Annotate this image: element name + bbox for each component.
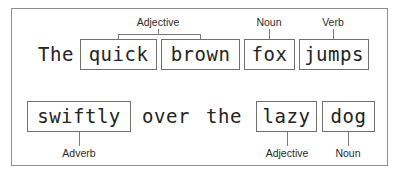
token-quick[interactable]: quick (80, 39, 157, 70)
pos-label-adjective-top: Adjective (137, 16, 180, 28)
pos-label-noun-bottom: Noun (335, 147, 360, 159)
token-swiftly[interactable]: swiftly (27, 101, 131, 132)
connector-noun-fox (269, 29, 270, 39)
connector-noun-dog (348, 132, 349, 146)
token-over: over (137, 101, 195, 132)
figure-frame (11, 8, 388, 166)
connector-adjective-lazy (287, 132, 288, 146)
pos-label-noun-top: Noun (256, 16, 281, 28)
token-lazy[interactable]: lazy (256, 101, 317, 132)
token-the-2: the (201, 101, 247, 132)
token-brown[interactable]: brown (161, 39, 240, 70)
token-the: The (34, 39, 78, 70)
connector-verb-jumps (333, 29, 334, 39)
pos-label-adjective-bottom: Adjective (266, 147, 309, 159)
connector-adverb-swiftly (79, 132, 80, 146)
connector-adjective-crossbar (118, 34, 201, 35)
token-fox[interactable]: fox (244, 39, 295, 70)
token-jumps[interactable]: jumps (299, 39, 369, 70)
pos-label-adverb-bottom: Adverb (62, 147, 95, 159)
pos-label-verb-top: Verb (322, 16, 344, 28)
token-dog[interactable]: dog (322, 101, 375, 132)
sentence-annotation-figure: Adjective Noun Verb The quick brown fox … (0, 0, 400, 175)
